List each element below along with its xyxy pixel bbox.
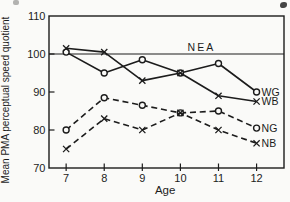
x-marker-NB xyxy=(139,127,145,133)
y-tick-label: 70 xyxy=(33,162,45,174)
circle-marker-WG xyxy=(215,61,221,67)
circle-marker-WG xyxy=(139,57,145,63)
x-tick-label: 7 xyxy=(63,172,69,184)
circle-marker-NG xyxy=(254,125,260,131)
series-label-NB: NB xyxy=(262,137,277,149)
x-tick-label: 10 xyxy=(174,172,186,184)
y-tick-label: 110 xyxy=(28,10,46,22)
series-line-WG xyxy=(66,52,257,92)
x-axis-title: Age xyxy=(155,184,175,196)
chart: 708090100110789101112NEAWGNGWBNBAgeMean … xyxy=(0,0,290,202)
x-tick-label: 8 xyxy=(101,172,107,184)
circle-marker-NG xyxy=(63,127,69,133)
series-line-WB xyxy=(66,48,257,101)
series-line-NB xyxy=(66,113,257,149)
x-tick-label: 12 xyxy=(250,172,262,184)
line-chart-canvas: 708090100110789101112NEAWGNGWBNBAgeMean … xyxy=(0,0,290,202)
x-tick-label: 9 xyxy=(139,172,145,184)
y-tick-label: 100 xyxy=(27,48,45,60)
circle-marker-NG xyxy=(101,95,107,101)
circle-marker-WG xyxy=(254,89,260,95)
y-tick-label: 90 xyxy=(33,86,45,98)
plot-frame xyxy=(49,16,284,168)
y-tick-label: 80 xyxy=(33,124,45,136)
series-line-NG xyxy=(66,98,257,130)
x-marker-NB xyxy=(215,127,221,133)
circle-marker-NG xyxy=(139,102,145,108)
x-marker-NB xyxy=(63,146,69,152)
circle-marker-NG xyxy=(215,108,221,114)
x-tick-label: 11 xyxy=(213,172,224,184)
y-axis-title: Mean PMA perceptual speed quotient xyxy=(0,16,11,183)
circle-marker-WG xyxy=(101,70,107,76)
series-label-WB: WB xyxy=(262,95,279,107)
scan-artifact xyxy=(13,0,19,5)
nea-label: NEA xyxy=(188,41,216,53)
series-label-NG: NG xyxy=(262,122,278,134)
